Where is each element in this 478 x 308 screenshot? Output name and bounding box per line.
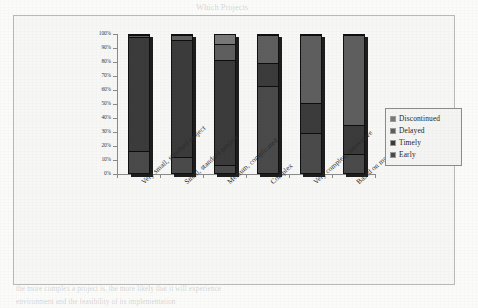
legend-swatch-icon bbox=[390, 116, 396, 122]
legend-label: Timely bbox=[399, 139, 421, 146]
bar-segment-early[interactable] bbox=[172, 158, 192, 173]
bar-segment-early[interactable] bbox=[258, 87, 278, 173]
legend-label: Early bbox=[399, 151, 416, 158]
y-axis-line bbox=[117, 34, 118, 175]
y-tick-label: 80% bbox=[101, 59, 111, 64]
bar-segment-delayed[interactable] bbox=[301, 36, 321, 104]
y-tick-label: 0% bbox=[104, 171, 111, 176]
y-tick bbox=[113, 48, 117, 49]
bar-segment-early[interactable] bbox=[129, 152, 149, 173]
legend-swatch-icon bbox=[390, 128, 396, 134]
x-tick bbox=[375, 174, 376, 178]
y-tick bbox=[113, 76, 117, 77]
y-tick bbox=[113, 160, 117, 161]
y-tick bbox=[113, 146, 117, 147]
y-tick-label: 100% bbox=[99, 31, 111, 36]
bar-column[interactable] bbox=[128, 34, 150, 174]
y-tick-label: 30% bbox=[101, 129, 111, 134]
bar-segment-delayed[interactable] bbox=[215, 45, 235, 62]
x-tick bbox=[332, 174, 333, 178]
bar-segment-discontinued[interactable] bbox=[215, 35, 235, 45]
bar-segment-timely[interactable] bbox=[258, 64, 278, 87]
bar-column[interactable] bbox=[300, 34, 322, 174]
y-tick-label: 70% bbox=[101, 73, 111, 78]
legend-swatch-icon bbox=[390, 152, 396, 158]
legend-label: Discontinued bbox=[399, 115, 440, 122]
x-tick bbox=[160, 174, 161, 178]
scanned-page: Which Projects may contain between the p… bbox=[0, 0, 478, 308]
y-tick bbox=[113, 118, 117, 119]
x-tick bbox=[246, 174, 247, 178]
bleed-text-line-i: environment and the feasibility of its i… bbox=[16, 297, 176, 306]
y-tick-label: 10% bbox=[101, 157, 111, 162]
bar-segment-early[interactable] bbox=[215, 166, 235, 173]
bar-segment-timely[interactable] bbox=[301, 104, 321, 134]
y-tick-label: 60% bbox=[101, 87, 111, 92]
y-tick-label: 50% bbox=[101, 101, 111, 106]
legend-swatch-icon bbox=[390, 140, 396, 146]
bar-segment-timely[interactable] bbox=[129, 38, 149, 153]
bar-segment-early[interactable] bbox=[301, 134, 321, 173]
y-tick-label: 90% bbox=[101, 45, 111, 50]
y-tick bbox=[113, 90, 117, 91]
legend-item[interactable]: Early bbox=[390, 149, 458, 161]
bar-segment-delayed[interactable] bbox=[344, 36, 364, 126]
bar-stack bbox=[300, 34, 322, 174]
y-tick bbox=[113, 104, 117, 105]
y-tick bbox=[113, 62, 117, 63]
legend-item[interactable]: Timely bbox=[390, 137, 458, 149]
x-tick bbox=[289, 174, 290, 178]
y-tick bbox=[113, 132, 117, 133]
legend-label: Delayed bbox=[399, 127, 425, 134]
x-tick bbox=[117, 174, 118, 178]
bleed-text-line-h: the more complex a project is, the more … bbox=[16, 284, 221, 293]
bleed-text-header: Which Projects bbox=[196, 2, 248, 12]
legend-item[interactable]: Discontinued bbox=[390, 113, 458, 125]
legend-item[interactable]: Delayed bbox=[390, 125, 458, 137]
x-tick bbox=[203, 174, 204, 178]
y-tick bbox=[113, 34, 117, 35]
bar-stack bbox=[128, 34, 150, 174]
chart-legend: DiscontinuedDelayedTimelyEarly bbox=[385, 108, 462, 166]
chart-frame: 100%90%80%70%60%50%40%30%20%10%0% Very s… bbox=[13, 15, 455, 285]
y-tick-label: 40% bbox=[101, 115, 111, 120]
y-tick-label: 20% bbox=[101, 143, 111, 148]
plot-area: 100%90%80%70%60%50%40%30%20%10%0% bbox=[117, 34, 375, 174]
bar-segment-delayed[interactable] bbox=[258, 36, 278, 64]
